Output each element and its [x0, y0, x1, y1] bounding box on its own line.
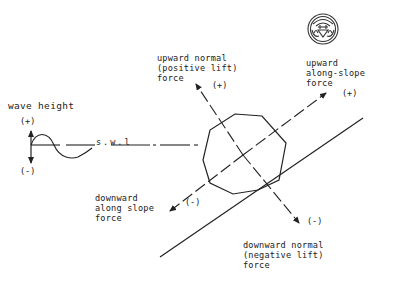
- wave-plus-sign: (+): [20, 116, 35, 126]
- upward-normal-line-1: upward normal: [157, 53, 238, 63]
- wave-axis: [31, 131, 92, 163]
- upward-slope-line-3: force: [306, 78, 365, 88]
- diagram-canvas: [0, 0, 399, 282]
- wave-minus-sign: (-): [20, 166, 35, 176]
- upward-normal-label: upward normal (positive lift) force: [157, 53, 238, 83]
- downward-normal-line-3: force: [243, 260, 324, 270]
- downward-slope-sign: (-): [185, 197, 200, 207]
- downward-normal-label: downward normal (negative lift) force: [243, 240, 324, 270]
- logo-emblem-icon: [308, 14, 338, 44]
- wave-height-label: wave height: [8, 100, 74, 111]
- downward-normal-line-1: downward normal: [243, 240, 324, 250]
- seabed-line: [160, 118, 363, 257]
- upward-slope-label: upward along-slope force: [306, 58, 365, 88]
- downward-normal-sign: (-): [307, 216, 322, 226]
- slope-axis: [170, 93, 326, 211]
- downward-slope-line-2: along slope: [95, 203, 154, 213]
- upward-slope-line-1: upward: [306, 58, 365, 68]
- upward-slope-line-2: along-slope: [306, 68, 365, 78]
- upward-slope-sign: (+): [342, 88, 357, 98]
- upward-normal-sign: (+): [212, 80, 227, 90]
- downward-slope-line-3: force: [95, 213, 154, 223]
- downward-normal-line-2: (negative lift): [243, 250, 324, 260]
- downward-slope-label: downward along slope force: [95, 193, 154, 223]
- upward-normal-line-2: (positive lift): [157, 63, 238, 73]
- swl-label: s.w.l: [96, 137, 132, 147]
- downward-slope-line-1: downward: [95, 193, 154, 203]
